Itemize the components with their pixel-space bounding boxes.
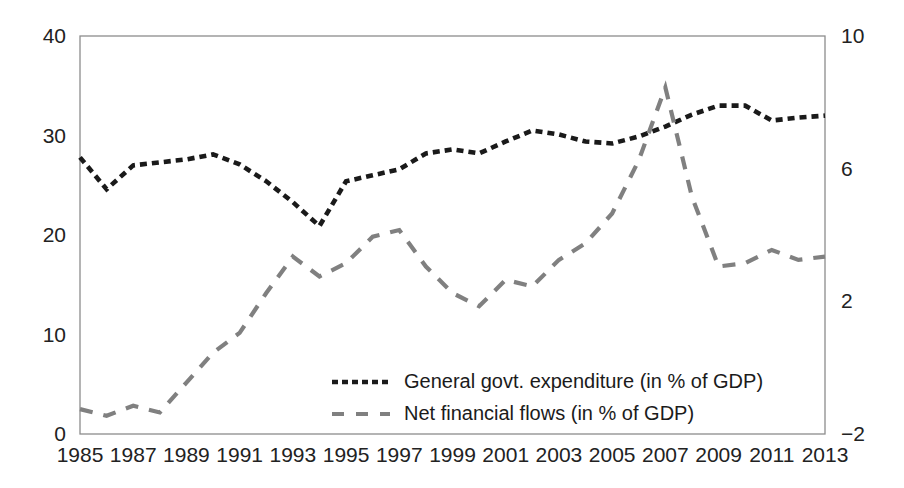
x-axis-tick-label: 2007 xyxy=(642,443,689,466)
x-axis-tick-label: 1999 xyxy=(429,443,476,466)
chart-legend: General govt. expenditure (in % of GDP)N… xyxy=(332,370,763,424)
x-axis-tick-label: 1989 xyxy=(163,443,210,466)
x-axis-tick-label: 2011 xyxy=(749,443,794,466)
chart-container: 010203040 −22610 19851987198919911993199… xyxy=(0,0,904,488)
left-axis-ticks: 010203040 xyxy=(43,24,66,445)
y-axis-tick-label: 30 xyxy=(43,124,66,147)
x-axis-tick-label: 1997 xyxy=(376,443,423,466)
x-axis-tick-label: 1995 xyxy=(323,443,370,466)
y-axis-tick-label: 40 xyxy=(43,24,66,47)
right-axis-ticks: −22610 xyxy=(841,24,865,445)
y2-axis-tick-label: −2 xyxy=(841,422,865,445)
x-axis-tick-label: 2009 xyxy=(695,443,742,466)
y2-axis-tick-label: 6 xyxy=(841,157,853,180)
y2-axis-tick-label: 10 xyxy=(841,24,864,47)
series-line-1 xyxy=(80,106,825,226)
y-axis-tick-label: 0 xyxy=(54,422,66,445)
x-axis-tick-label: 1985 xyxy=(57,443,104,466)
x-axis-ticks: 1985198719891991199319951997199920012003… xyxy=(57,443,849,466)
series-line-2 xyxy=(80,87,825,415)
legend-label-1: General govt. expenditure (in % of GDP) xyxy=(404,370,763,392)
legend-label-2: Net financial flows (in % of GDP) xyxy=(404,402,694,424)
y-axis-tick-label: 20 xyxy=(43,223,66,246)
x-axis-tick-label: 1993 xyxy=(269,443,316,466)
x-axis-tick-label: 2013 xyxy=(802,443,849,466)
y-axis-tick-label: 10 xyxy=(43,323,66,346)
series-layer xyxy=(80,87,825,415)
x-axis-tick-label: 1991 xyxy=(216,443,263,466)
x-axis-tick-label: 1987 xyxy=(110,443,157,466)
x-axis-tick-label: 2003 xyxy=(536,443,583,466)
y2-axis-tick-label: 2 xyxy=(841,289,853,312)
line-chart: 010203040 −22610 19851987198919911993199… xyxy=(0,0,904,488)
x-axis-tick-label: 2001 xyxy=(482,443,529,466)
x-axis-tick-label: 2005 xyxy=(589,443,636,466)
